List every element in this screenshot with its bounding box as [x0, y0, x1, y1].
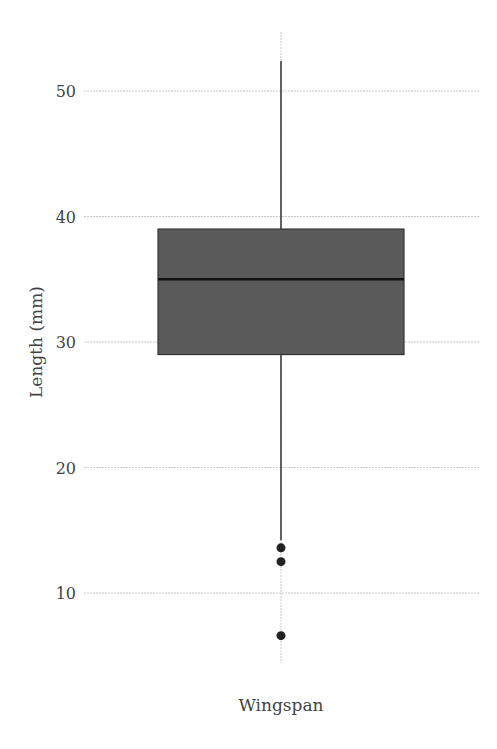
y-axis-title: Length (mm) — [26, 286, 46, 398]
interquartile-box — [158, 229, 404, 354]
y-tick-label: 30 — [56, 333, 76, 352]
y-axis-tick-labels: 1020304050 — [56, 82, 76, 603]
outlier-point — [277, 631, 286, 640]
y-tick-label: 40 — [56, 208, 76, 227]
outlier-point — [277, 557, 286, 566]
outlier-point — [277, 543, 286, 552]
boxplot-chart: 1020304050 Length (mm) Wingspan — [0, 0, 497, 749]
y-tick-label: 20 — [56, 459, 76, 478]
x-category-label: Wingspan — [238, 695, 323, 715]
box-wingspan — [158, 61, 404, 640]
box-plot-series — [158, 61, 404, 640]
y-tick-label: 50 — [56, 82, 76, 101]
y-tick-label: 10 — [56, 584, 76, 603]
x-axis-category-labels: Wingspan — [238, 695, 323, 715]
